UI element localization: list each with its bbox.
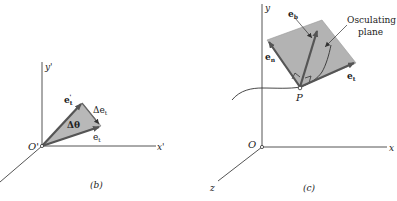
point-p bbox=[298, 86, 302, 90]
y-prime-label: y' bbox=[44, 62, 53, 72]
eb-label: eb bbox=[288, 9, 298, 20]
caption-b: (b) bbox=[90, 180, 103, 190]
osculating-plane bbox=[267, 20, 356, 87]
diagram-canvas: O' y' x' et' Δet Δθ et (b) bbox=[0, 0, 397, 201]
x-prime-label: x' bbox=[157, 142, 165, 152]
panel-b: O' y' x' et' Δet Δθ et (b) bbox=[0, 62, 165, 190]
et-prime-label: et' bbox=[64, 93, 73, 106]
et-label: et bbox=[93, 132, 101, 143]
point-p-label: P bbox=[295, 92, 303, 103]
delta-theta-label: Δθ bbox=[67, 120, 80, 130]
plane-label-line1: Osculating bbox=[347, 15, 396, 25]
et-c-label: et bbox=[347, 71, 356, 82]
en-label: en bbox=[265, 52, 276, 63]
z-axis bbox=[218, 147, 262, 181]
plane-label-line2: plane bbox=[358, 27, 383, 37]
x-axis-label: x bbox=[389, 143, 394, 153]
y-axis-label: y bbox=[264, 3, 271, 13]
origin-b-label: O' bbox=[28, 141, 39, 152]
delta-et-label: Δet bbox=[93, 105, 108, 116]
origin-b-point bbox=[40, 144, 43, 147]
panel-c: y x z O P eb en et Osculating plane (c) bbox=[209, 3, 396, 193]
origin-label: O bbox=[248, 139, 256, 150]
origin-point bbox=[260, 145, 263, 148]
z-axis-label: z bbox=[209, 183, 215, 193]
caption-c: (c) bbox=[303, 183, 316, 193]
